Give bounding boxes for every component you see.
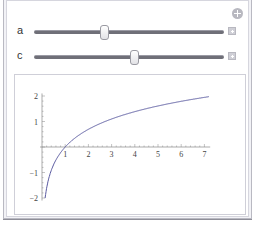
y-tick-label: 2 — [34, 92, 38, 101]
plot-panel: 1234567−2−112 — [14, 74, 246, 215]
x-tick-label: 7 — [202, 150, 206, 159]
slider-label-a: a — [17, 24, 23, 36]
x-tick-label: 3 — [110, 150, 114, 159]
plot-curve — [45, 97, 209, 198]
circle-plus-icon[interactable] — [232, 8, 243, 19]
y-tick-label: −2 — [29, 194, 38, 203]
x-tick-label: 1 — [63, 150, 67, 159]
slider-a[interactable] — [34, 30, 224, 34]
x-tick-label: 6 — [179, 150, 183, 159]
x-tick-label: 4 — [133, 150, 137, 159]
slider-a-thumb[interactable] — [100, 25, 109, 40]
plus-square-icon[interactable] — [228, 27, 236, 35]
x-tick-label: 5 — [156, 150, 160, 159]
y-tick-label: −1 — [29, 169, 38, 178]
y-tick-label: 1 — [34, 118, 38, 127]
x-tick-label: 2 — [86, 150, 90, 159]
slider-c[interactable] — [34, 55, 224, 59]
plot: 1234567−2−112 — [15, 75, 245, 214]
slider-c-thumb[interactable] — [130, 50, 139, 65]
plus-square-icon[interactable] — [228, 52, 236, 60]
slider-row-c: c — [0, 49, 255, 65]
slider-row-a: a — [0, 24, 255, 40]
slider-label-c: c — [17, 49, 23, 61]
